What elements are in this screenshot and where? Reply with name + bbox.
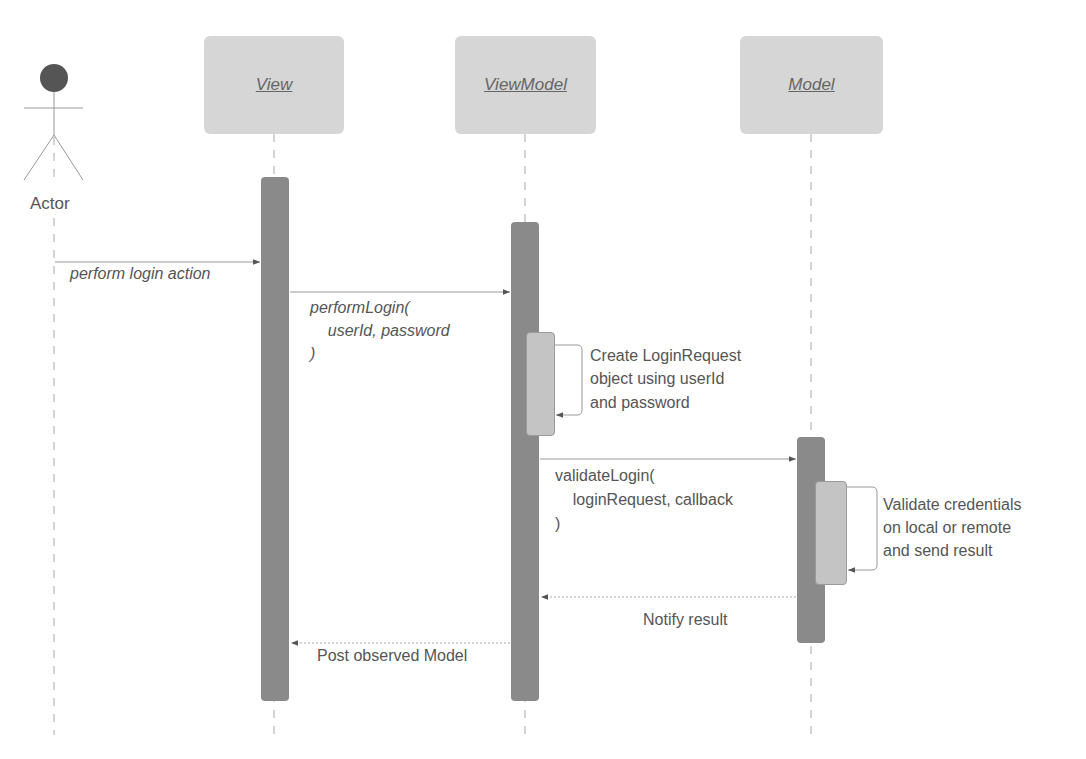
message-notify-result: Notify result [643,609,727,630]
message-perform-login-action: perform login action [70,263,211,284]
message-line: object using userId [590,368,724,389]
nested-activation-model[interactable] [815,481,847,585]
message-line: performLogin( [310,297,410,318]
message-line: Create LoginRequest [590,345,741,366]
message-line: loginRequest, callback [555,489,733,510]
participant-viewmodel[interactable]: ViewModel [455,36,596,134]
activation-viewmodel[interactable] [511,222,539,701]
message-line: ) [310,343,315,364]
participant-view-label: View [256,75,293,95]
participant-viewmodel-label: ViewModel [484,75,567,95]
message-line: validateLogin( [555,465,655,486]
participant-model-label: Model [788,75,834,95]
participant-model[interactable]: Model [740,36,883,134]
activation-view[interactable] [261,177,289,701]
nested-activation-viewmodel[interactable] [526,332,555,436]
actor-label: Actor [30,193,70,214]
message-line: and send result [883,540,992,561]
message-line: on local or remote [883,517,1011,538]
message-line: and password [590,392,690,413]
message-post-observed-model: Post observed Model [317,645,467,666]
message-line: ) [555,513,560,534]
participant-view[interactable]: View [204,36,344,134]
message-line: userId, password [310,320,450,341]
message-line: Validate credentials [883,494,1021,515]
stick-figure-icon [24,64,83,180]
